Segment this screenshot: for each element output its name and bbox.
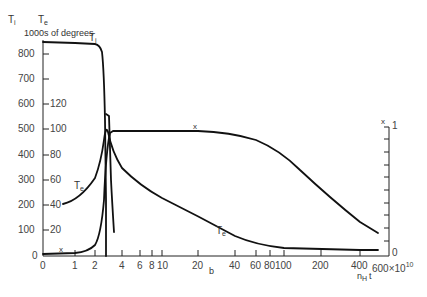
x-tick-2: 2 [92, 261, 98, 271]
te-tick-80: 80 [50, 150, 61, 160]
x-tick-0: 0 [40, 261, 46, 271]
plot-area [0, 0, 427, 297]
ti-tick-500: 500 [18, 124, 35, 134]
x-tick-40: 40 [229, 261, 240, 271]
right-axis-title-x: x [381, 118, 385, 126]
x-tick-8: 8 [149, 261, 155, 271]
curve-label-Te-right: Te [216, 226, 226, 237]
te-subscript: e [44, 19, 48, 26]
nH-subscript: H [362, 275, 367, 282]
ti-tick-200: 200 [18, 200, 35, 210]
te-tick-40: 40 [50, 200, 61, 210]
ti-axis-label: Ti [8, 15, 16, 26]
x-tick-1: 1 [72, 261, 78, 271]
x-tick-10: 10 [157, 261, 168, 271]
te-tick-60: 60 [50, 175, 61, 185]
x-multiplier: ×10 [389, 263, 406, 274]
te-tick-20: 20 [50, 225, 61, 235]
x-tick-4: 4 [119, 261, 125, 271]
x-tick-600-value: 600 [372, 263, 389, 274]
te-axis-label: Te [38, 15, 48, 26]
x-tick-400: 400 [351, 261, 368, 271]
x-tick-6: 6 [137, 261, 143, 271]
x-tick-80: 80 [264, 261, 275, 271]
x-tick-200: 200 [312, 261, 329, 271]
x-axis-title-nHt: nHt [357, 272, 372, 282]
te-tick-120: 120 [50, 99, 67, 109]
ti-subscript: i [14, 19, 16, 26]
curve-Ti-sub: i [95, 37, 97, 44]
ti-tick-600: 600 [18, 99, 35, 109]
ti-tick-400: 400 [18, 150, 35, 160]
ti-tick-700: 700 [18, 74, 35, 84]
x-tick-20: 20 [192, 261, 203, 271]
curve-Te-left-sub: e [80, 185, 84, 192]
x-tick-600: 600×1010 [372, 261, 413, 274]
curve-label-Ti: Ti [89, 33, 97, 44]
te-tick-100: 100 [50, 124, 67, 134]
curve-Te-right-sub: e [222, 230, 226, 237]
left-ticks [43, 54, 49, 230]
ti-tick-800: 800 [18, 49, 35, 59]
ti-tick-100: 100 [18, 225, 35, 235]
x-tick-100: 100 [275, 261, 292, 271]
x-frac-tick-1: 1 [392, 121, 398, 131]
series-x [43, 131, 378, 254]
curve-label-x-top: x [193, 123, 197, 131]
x-tick-60: 60 [250, 261, 261, 271]
x-axis-title-b: b [209, 267, 214, 276]
right-ticks [384, 127, 389, 241]
ti-tick-0: 0 [32, 251, 38, 261]
x-frac-tick-0: 0 [392, 248, 398, 258]
curve-label-Te-left: Te [74, 181, 84, 192]
x-ticks [75, 250, 360, 256]
x-multiplier-exp: 10 [406, 261, 414, 268]
ti-tick-300: 300 [18, 175, 35, 185]
units-label: 1000s of degrees [24, 29, 94, 38]
t-letter: t [369, 271, 372, 281]
curve-label-x-bottom: x [59, 246, 63, 254]
